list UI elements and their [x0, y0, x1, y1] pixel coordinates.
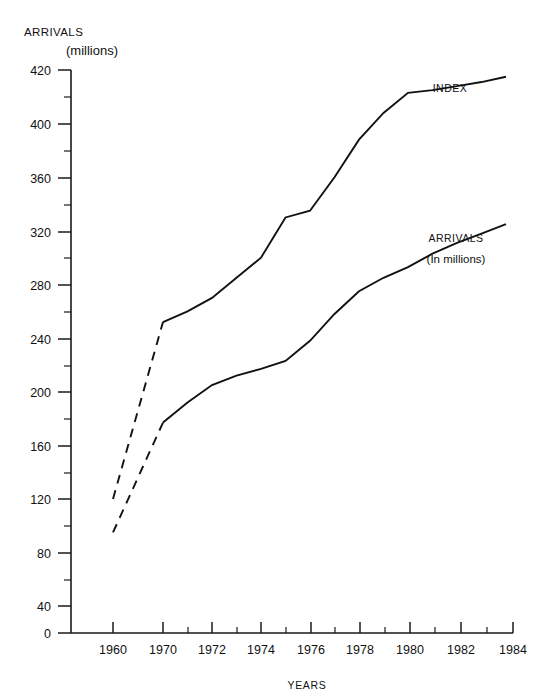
y-axis-title-main: ARRIVALS [24, 26, 83, 38]
series-arrivals-dashed-segment [113, 423, 163, 533]
x-tick-label-1978: 1978 [346, 643, 374, 657]
x-axis-tick-labels: 1960 1970 1972 1974 1976 1978 1980 1982 … [99, 643, 527, 657]
y-tick-label-360: 360 [30, 172, 51, 186]
series-label-index: INDEX [433, 82, 468, 94]
y-tick-label-280: 280 [30, 279, 51, 293]
y-tick-label-40: 40 [37, 600, 51, 614]
x-tick-label-1976: 1976 [297, 643, 325, 657]
x-tick-label-1970: 1970 [149, 643, 177, 657]
y-tick-label-400: 400 [30, 118, 51, 132]
x-tick-label-1972: 1972 [198, 643, 226, 657]
line-chart-svg: ARRIVALS (millions) [0, 0, 550, 699]
y-tick-label-320: 320 [30, 226, 51, 240]
series-index-dashed-segment [113, 322, 163, 499]
series-sublabel-arrivals: (In millions) [427, 253, 486, 265]
x-tick-label-1960: 1960 [99, 643, 127, 657]
x-tick-label-1980: 1980 [396, 643, 424, 657]
y-tick-label-120: 120 [30, 493, 51, 507]
y-axis-major-ticks [58, 70, 71, 633]
x-tick-label-1982: 1982 [447, 643, 475, 657]
series-index-line [163, 77, 506, 322]
y-tick-label-160: 160 [30, 440, 51, 454]
y-tick-label-240: 240 [30, 333, 51, 347]
chart-container: ARRIVALS (millions) [0, 0, 550, 699]
x-axis-title: YEARS [287, 679, 326, 691]
x-axis-minor-ticks [188, 627, 487, 633]
series-label-arrivals: ARRIVALS [428, 232, 483, 244]
y-axis-tick-labels: 420 400 360 320 280 240 200 160 120 80 4… [30, 64, 51, 641]
series-group [113, 77, 506, 533]
y-axis-title-sub: (millions) [66, 43, 118, 58]
x-tick-label-1974: 1974 [247, 643, 275, 657]
y-tick-label-0: 0 [44, 627, 51, 641]
x-tick-label-1984: 1984 [499, 643, 527, 657]
y-tick-label-200: 200 [30, 386, 51, 400]
y-tick-label-80: 80 [37, 547, 51, 561]
x-axis-major-ticks [113, 622, 513, 633]
y-tick-label-420: 420 [30, 64, 51, 78]
